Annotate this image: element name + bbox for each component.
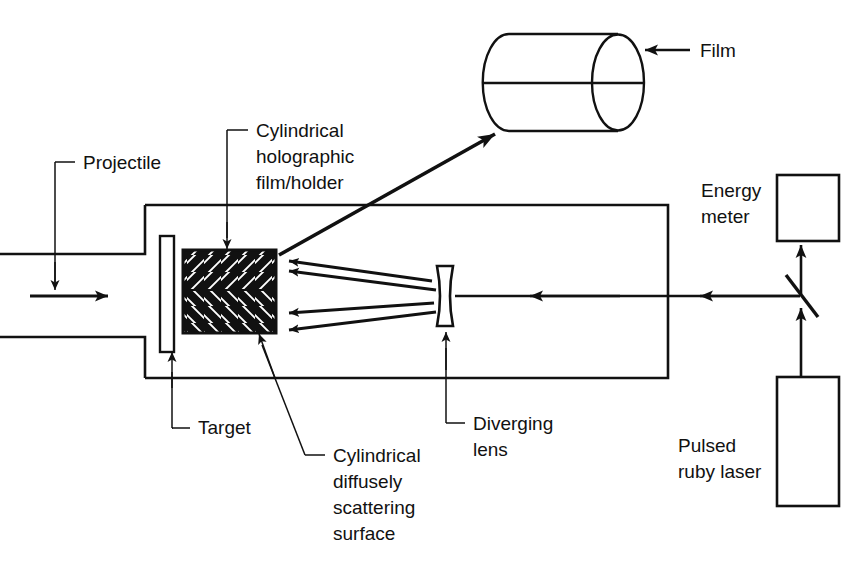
gun-barrel bbox=[0, 205, 145, 378]
leader-target bbox=[172, 372, 190, 428]
leader-projectile bbox=[55, 162, 75, 282]
label-energy-meter-line2: meter bbox=[701, 206, 750, 227]
film-cylinder bbox=[483, 34, 644, 131]
label-energy-meter-line1: Energy bbox=[701, 180, 762, 201]
cylindrical-holographic-film-holder bbox=[183, 250, 276, 333]
label-projectile: Projectile bbox=[83, 152, 161, 173]
diagram-canvas: Projectile Cylindrical holographic film/… bbox=[0, 0, 868, 565]
energy-meter bbox=[777, 175, 839, 241]
scattered-beam-1 bbox=[289, 261, 432, 281]
label-film: Film bbox=[700, 40, 736, 61]
label-diverging-lens-line1: Diverging bbox=[473, 413, 553, 434]
scattered-beam-4 bbox=[289, 312, 436, 330]
diverging-lens bbox=[437, 266, 453, 326]
label-pulsed-ruby-laser-line1: Pulsed bbox=[678, 435, 736, 456]
label-pulsed-ruby-laser-line2: ruby laser bbox=[678, 461, 762, 482]
label-holographic-holder-line3: film/holder bbox=[256, 172, 344, 193]
label-scattering-line3: scattering bbox=[333, 497, 415, 518]
label-scattering-line4: surface bbox=[333, 523, 395, 544]
scattered-beam-bundle bbox=[289, 261, 436, 330]
scattered-beam-3 bbox=[289, 303, 434, 313]
label-scattering-line2: diffusely bbox=[333, 471, 403, 492]
leader-scattering-surface-arrowhead bbox=[259, 334, 275, 378]
label-target: Target bbox=[198, 417, 252, 438]
label-holographic-holder-line1: Cylindrical bbox=[256, 120, 344, 141]
leader-holographic-holder bbox=[227, 130, 248, 238]
scattered-beam-2 bbox=[289, 271, 436, 290]
pulsed-ruby-laser bbox=[777, 377, 839, 506]
label-holographic-holder-line2: holographic bbox=[256, 146, 354, 167]
leader-diverging-lens bbox=[446, 348, 465, 423]
figure-root: Projectile Cylindrical holographic film/… bbox=[0, 0, 868, 565]
leader-scattering-surface bbox=[262, 345, 325, 455]
label-scattering-line1: Cylindrical bbox=[333, 445, 421, 466]
target-plate bbox=[160, 236, 174, 352]
label-diverging-lens-line2: lens bbox=[473, 439, 508, 460]
